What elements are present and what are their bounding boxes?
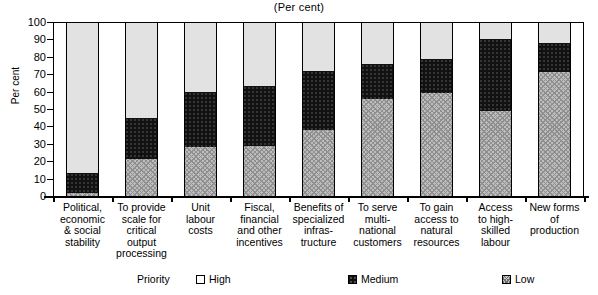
bar-column[interactable] [66,22,99,196]
x-category-label: To gain access to natural resources [405,202,468,248]
bar-segment-high[interactable] [244,22,275,86]
legend: Priority HighMediumLow [0,273,598,291]
bar-segment-high[interactable] [126,22,157,118]
legend-item-high[interactable]: High [196,273,231,285]
y-tick-label-70: 70 [34,69,46,80]
bar-segment-high[interactable] [539,22,570,43]
bar-column[interactable] [538,22,571,196]
swatch-low-icon [502,275,511,284]
bar-segment-low[interactable] [421,93,452,196]
x-tick-mark [407,196,409,202]
x-category-label: Access to high- skilled labour [464,202,527,248]
bar-segment-low[interactable] [362,99,393,196]
x-tick-mark [584,196,586,202]
x-tick-mark [53,196,55,202]
legend-item-label: High [209,273,231,285]
bar-segment-low[interactable] [185,147,216,196]
x-category-label: Benefits of specialized infras- tructure [287,202,350,248]
x-tick-mark [112,196,114,202]
stacked-bar-chart: (Per cent) Per cent 01020304050607080901… [0,0,598,295]
bar-column[interactable] [302,22,335,196]
bar-segment-medium[interactable] [303,71,334,130]
y-tick-label-90: 90 [34,34,46,45]
y-tick-label-60: 60 [34,86,46,97]
bar-column[interactable] [184,22,217,196]
bar-segment-low[interactable] [480,111,511,196]
bar-column[interactable] [361,22,394,196]
x-category-label: To provide scale for critical output pro… [110,202,173,260]
y-tick-label-10: 10 [34,173,46,184]
bar-column[interactable] [479,22,512,196]
bar-segment-medium[interactable] [480,39,511,110]
bar-segment-medium[interactable] [67,173,98,192]
legend-item-label: Medium [361,273,398,285]
bar-segment-medium[interactable] [539,43,570,73]
y-tick-label-20: 20 [34,156,46,167]
y-tick-label-100: 100 [28,17,46,28]
x-category-label: Political, economic & social stability [51,202,114,248]
bar-segment-high[interactable] [67,22,98,173]
y-tick-label-50: 50 [34,104,46,115]
bar-segment-high[interactable] [362,22,393,64]
bar-segment-low[interactable] [126,159,157,196]
x-axis-line [44,196,589,198]
x-tick-mark [171,196,173,202]
y-axis-tick-labels: 0102030405060708090100 [18,0,46,295]
x-category-label: New forms of production [523,202,586,237]
bar-segment-medium[interactable] [185,92,216,148]
bar-segment-low[interactable] [67,193,98,196]
x-category-label: Unit labour costs [169,202,232,237]
x-tick-mark [525,196,527,202]
bar-segment-medium[interactable] [244,86,275,145]
legend-item-low[interactable]: Low [502,273,534,285]
legend-title: Priority [137,273,170,285]
bar-column[interactable] [243,22,276,196]
swatch-medium-icon [348,275,357,284]
bar-segment-medium[interactable] [126,118,157,160]
bar-segment-high[interactable] [480,22,511,39]
bar-segment-low[interactable] [303,130,334,196]
bar-segment-medium[interactable] [421,59,452,94]
x-category-label: Fiscal, financial and other incentives [228,202,291,248]
x-tick-mark [466,196,468,202]
x-tick-mark [289,196,291,202]
bar-segment-high[interactable] [421,22,452,59]
y-tick-label-80: 80 [34,51,46,62]
bar-segment-high[interactable] [185,22,216,92]
x-category-label: To serve multi- national customers [346,202,409,248]
legend-item-label: Low [515,273,534,285]
bar-segment-low[interactable] [244,146,275,196]
x-tick-mark [230,196,232,202]
x-tick-mark [348,196,350,202]
bar-column[interactable] [125,22,158,196]
swatch-high-icon [196,275,205,284]
bar-segment-low[interactable] [539,72,570,196]
chart-title: (Per cent) [0,1,598,13]
y-tick-label-30: 30 [34,138,46,149]
bar-segment-medium[interactable] [362,64,393,99]
bar-segment-high[interactable] [303,22,334,71]
bar-column[interactable] [420,22,453,196]
y-tick-label-40: 40 [34,121,46,132]
legend-item-medium[interactable]: Medium [348,273,398,285]
